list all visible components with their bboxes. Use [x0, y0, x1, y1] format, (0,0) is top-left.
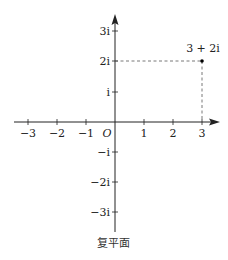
y-tick-label: −2i [90, 176, 110, 189]
caption: 复平面 [97, 236, 130, 250]
y-tick-label: i [106, 86, 110, 99]
point-label: 3 + 2i [186, 42, 220, 55]
x-tick-label: 1 [141, 127, 148, 140]
y-tick-label: −i [97, 146, 110, 159]
x-tick-label: 2 [170, 127, 177, 140]
y-tick-label: 3i [99, 25, 110, 38]
x-tick-label: −1 [78, 127, 94, 140]
x-tick-label: −2 [49, 127, 65, 140]
x-tick-label: 3 [199, 127, 206, 140]
origin-label: O [102, 127, 111, 140]
y-tick-label: 2i [99, 55, 110, 68]
complex-point [200, 59, 204, 63]
x-tick-label: −3 [20, 127, 36, 140]
y-tick-label: −3i [90, 206, 110, 219]
complex-plane-diagram: −3 −2 −1 O 1 2 3 3i 2i i −i −2i −3i 3 + … [0, 0, 228, 260]
